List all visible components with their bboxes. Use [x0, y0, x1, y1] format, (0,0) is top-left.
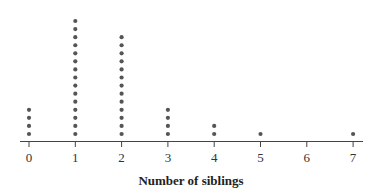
data-dot [73, 100, 77, 104]
data-dot [166, 124, 170, 128]
data-dot [73, 43, 77, 47]
data-dot [73, 35, 77, 39]
data-dot [166, 116, 170, 120]
data-dot [166, 108, 170, 112]
data-dot [258, 132, 262, 136]
data-dot [120, 108, 124, 112]
x-tick-label: 3 [165, 150, 172, 165]
data-dot [73, 19, 77, 23]
data-dot [120, 92, 124, 96]
data-dot [120, 51, 124, 55]
data-dot [73, 124, 77, 128]
x-axis-ticks: 01234567 [26, 142, 357, 166]
data-dot [120, 83, 124, 87]
data-dot [120, 100, 124, 104]
data-dot [73, 108, 77, 112]
data-dot [73, 92, 77, 96]
data-dot [120, 35, 124, 39]
x-tick-label: 1 [72, 150, 79, 165]
data-dot [73, 59, 77, 63]
data-dot [351, 132, 355, 136]
x-tick-label: 0 [26, 150, 33, 165]
data-dot [73, 67, 77, 71]
data-dot [166, 132, 170, 136]
dot-plot: 01234567 Number of siblings [0, 0, 383, 195]
data-dot [120, 116, 124, 120]
data-dot [27, 132, 31, 136]
data-dot [120, 43, 124, 47]
data-dot [120, 67, 124, 71]
x-tick-label: 4 [211, 150, 218, 165]
data-dot [120, 132, 124, 136]
data-dot [73, 116, 77, 120]
data-dot [73, 51, 77, 55]
data-dot [27, 116, 31, 120]
x-tick-label: 5 [257, 150, 264, 165]
x-axis-title: Number of siblings [138, 173, 243, 188]
x-tick-label: 6 [304, 150, 311, 165]
data-dot [120, 124, 124, 128]
data-dot [27, 124, 31, 128]
dot-series [27, 19, 355, 136]
data-dot [212, 124, 216, 128]
data-dot [120, 75, 124, 79]
x-tick-label: 7 [350, 150, 357, 165]
data-dot [73, 27, 77, 31]
x-tick-label: 2 [118, 150, 125, 165]
data-dot [212, 132, 216, 136]
data-dot [120, 59, 124, 63]
data-dot [73, 75, 77, 79]
data-dot [73, 83, 77, 87]
data-dot [73, 132, 77, 136]
data-dot [27, 108, 31, 112]
